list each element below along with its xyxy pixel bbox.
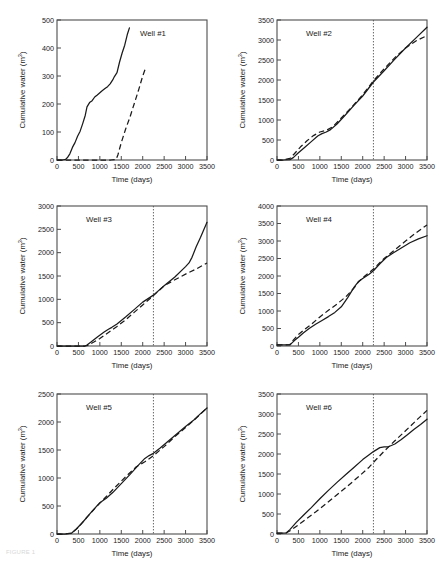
y-axis-title-close: ) bbox=[18, 425, 27, 428]
well-label: Well #6 bbox=[306, 403, 332, 412]
chart-panel-well-5: 0500100015002000250030003500050010001500… bbox=[0, 374, 219, 562]
y-axis-title-close: ) bbox=[238, 237, 247, 240]
y-tick-label: 200 bbox=[42, 100, 54, 109]
x-tick-label: 1500 bbox=[333, 162, 349, 171]
y-tick-label: 1500 bbox=[38, 272, 54, 281]
x-tick-label: 500 bbox=[292, 348, 304, 357]
y-tick-label: 1000 bbox=[38, 474, 54, 483]
y-tick-label: 3000 bbox=[38, 202, 54, 211]
x-tick-label: 500 bbox=[72, 348, 84, 357]
x-tick-label: 3500 bbox=[199, 348, 215, 357]
x-tick-label: 3500 bbox=[199, 536, 215, 545]
x-tick-label: 3000 bbox=[178, 162, 194, 171]
chart-panel-well-6: 0500100015002000250030003500050010001500… bbox=[220, 374, 439, 562]
chart-svg-5: 0500100015002000250030003500050010001500… bbox=[0, 374, 219, 562]
y-tick-label: 500 bbox=[42, 16, 54, 25]
y-axis-title-text: Cumulative water (m3) bbox=[17, 51, 27, 129]
y-axis-title-main: Cumulative water (m bbox=[18, 57, 27, 129]
y-axis-title-main: Cumulative water (m bbox=[238, 431, 247, 503]
x-tick-label: 1500 bbox=[113, 348, 129, 357]
series-line-simulated bbox=[57, 263, 207, 346]
x-tick-label: 2500 bbox=[156, 536, 172, 545]
y-tick-label: 0 bbox=[50, 530, 54, 539]
chart-svg-4: 0500100015002000250030003500050010001500… bbox=[220, 186, 439, 374]
x-tick-label: 1000 bbox=[312, 536, 328, 545]
plot-frame bbox=[277, 394, 427, 534]
x-tick-label: 2500 bbox=[376, 162, 392, 171]
y-tick-label: 2500 bbox=[38, 225, 54, 234]
y-tick-label: 500 bbox=[262, 136, 274, 145]
x-tick-label: 2500 bbox=[156, 348, 172, 357]
x-tick-label: 1500 bbox=[113, 536, 129, 545]
well-label: Well #1 bbox=[140, 29, 166, 38]
x-tick-label: 3000 bbox=[398, 536, 414, 545]
series-line-simulated bbox=[57, 68, 146, 160]
series-line-simulated bbox=[277, 410, 427, 533]
chart-panel-well-2: 0500100015002000250030003500050010001500… bbox=[220, 0, 439, 188]
y-tick-label: 100 bbox=[42, 128, 54, 137]
y-tick-label: 3500 bbox=[258, 219, 274, 228]
plot-frame bbox=[277, 20, 427, 160]
y-tick-label: 0 bbox=[50, 342, 54, 351]
y-tick-label: 1000 bbox=[258, 307, 274, 316]
x-tick-label: 500 bbox=[292, 162, 304, 171]
well-label: Well #4 bbox=[306, 215, 333, 224]
well-label: Well #5 bbox=[86, 403, 113, 412]
x-tick-label: 500 bbox=[72, 162, 84, 171]
y-tick-label: 2000 bbox=[38, 248, 54, 257]
x-tick-label: 3000 bbox=[398, 162, 414, 171]
x-tick-label: 2500 bbox=[156, 162, 172, 171]
y-axis-title-close: ) bbox=[18, 237, 27, 240]
y-axis-title-main: Cumulative water (m bbox=[18, 243, 27, 315]
x-tick-label: 0 bbox=[55, 348, 59, 357]
series-line-observed bbox=[277, 27, 427, 160]
y-tick-label: 1000 bbox=[258, 490, 274, 499]
x-tick-label: 1500 bbox=[113, 162, 129, 171]
well-label: Well #2 bbox=[306, 29, 332, 38]
figure-six-well-cumulative-water: 0500100015002000250030003500010020030040… bbox=[0, 0, 439, 564]
y-tick-label: 500 bbox=[262, 324, 274, 333]
x-tick-label: 0 bbox=[275, 348, 279, 357]
plot-frame bbox=[57, 20, 207, 160]
series-line-observed bbox=[277, 419, 427, 533]
chart-panel-well-3: 0500100015002000250030003500050010001500… bbox=[0, 186, 219, 374]
x-axis-title: Time (days) bbox=[332, 549, 373, 558]
x-tick-label: 3500 bbox=[419, 162, 435, 171]
plot-frame bbox=[57, 206, 207, 346]
chart-svg-3: 0500100015002000250030003500050010001500… bbox=[0, 186, 219, 374]
x-axis-title: Time (days) bbox=[112, 175, 153, 184]
y-tick-label: 2500 bbox=[258, 430, 274, 439]
figure-caption: FIGURE 1 bbox=[6, 549, 306, 555]
series-line-observed bbox=[57, 408, 207, 534]
y-axis-title: Cumulative water (m3) bbox=[237, 51, 247, 129]
series-line-observed bbox=[57, 222, 207, 346]
y-tick-label: 4000 bbox=[258, 202, 274, 211]
plot-frame bbox=[57, 394, 207, 534]
series-line-simulated bbox=[277, 225, 427, 345]
chart-svg-6: 0500100015002000250030003500050010001500… bbox=[220, 374, 439, 562]
y-axis-title-text: Cumulative water (m3) bbox=[237, 51, 247, 129]
y-axis-title-text: Cumulative water (m3) bbox=[17, 237, 27, 315]
x-tick-label: 3000 bbox=[178, 536, 194, 545]
y-axis-title-close: ) bbox=[18, 51, 27, 54]
y-tick-label: 0 bbox=[50, 156, 54, 165]
y-axis-title-text: Cumulative water (m3) bbox=[237, 425, 247, 503]
x-tick-label: 0 bbox=[55, 162, 59, 171]
x-tick-label: 3000 bbox=[178, 348, 194, 357]
x-axis-title: Time (days) bbox=[332, 361, 373, 370]
x-tick-label: 2000 bbox=[135, 536, 151, 545]
y-tick-label: 2500 bbox=[258, 56, 274, 65]
y-tick-label: 300 bbox=[42, 72, 54, 81]
x-tick-label: 2000 bbox=[355, 536, 371, 545]
x-tick-label: 0 bbox=[275, 162, 279, 171]
y-axis-title-text: Cumulative water (m3) bbox=[237, 237, 247, 315]
y-tick-label: 500 bbox=[42, 318, 54, 327]
y-axis-title: Cumulative water (m3) bbox=[17, 237, 27, 315]
series-line-observed bbox=[57, 28, 129, 160]
x-tick-label: 0 bbox=[55, 536, 59, 545]
y-tick-label: 3000 bbox=[258, 237, 274, 246]
y-tick-label: 0 bbox=[270, 530, 274, 539]
x-tick-label: 1000 bbox=[92, 348, 108, 357]
x-tick-label: 0 bbox=[275, 536, 279, 545]
well-label: Well #3 bbox=[86, 215, 112, 224]
